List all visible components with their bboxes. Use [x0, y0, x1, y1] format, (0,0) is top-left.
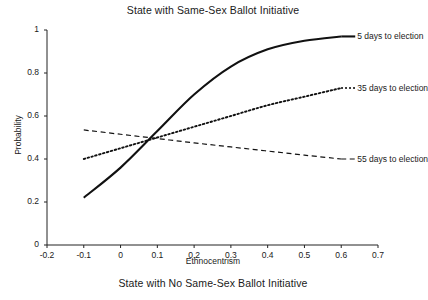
series-line-3 [84, 130, 341, 159]
series-line-2 [84, 88, 341, 159]
y-tick-label: 1 [5, 25, 39, 34]
x-tick-label: 0.7 [358, 251, 398, 260]
x-tick-label: 0.6 [321, 251, 361, 260]
x-axis-title: Ethnocentrism [163, 256, 263, 266]
y-tick-label: 0.2 [5, 197, 39, 206]
y-tick-label: 0.8 [5, 68, 39, 77]
series-line-1 [84, 36, 341, 197]
x-tick-label: 0 [101, 251, 141, 260]
y-axis-title: Probability [13, 105, 23, 165]
series-leader-lines [341, 36, 355, 159]
x-tick-label: -0.1 [64, 251, 104, 260]
series-label-1: 5 days to election [357, 31, 423, 41]
y-tick-label: 0 [5, 240, 39, 249]
axes [47, 30, 378, 245]
x-tick-label: -0.2 [27, 251, 67, 260]
series-label-2: 35 days to election [357, 83, 428, 93]
series-label-3: 55 days to election [357, 154, 428, 164]
x-tick-label: 0.5 [284, 251, 324, 260]
figure-caption: State with No Same-Sex Ballot Initiative [0, 277, 426, 289]
series-lines [84, 36, 341, 197]
